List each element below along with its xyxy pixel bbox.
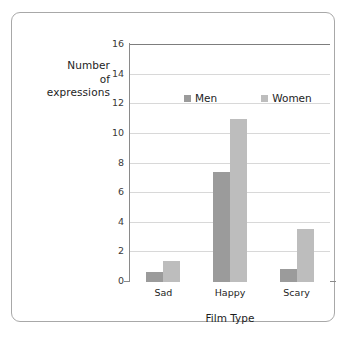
- x-axis-tick-label-happy: Happy: [195, 287, 265, 298]
- y-axis-tick-label: 8: [98, 157, 124, 168]
- gridline: [130, 74, 330, 75]
- y-axis-tick-label: 16: [98, 38, 124, 49]
- legend-swatch-icon-women: [261, 95, 268, 102]
- x-axis-tick-label-scary: Scary: [262, 287, 332, 298]
- bar-happy-women: [230, 119, 247, 282]
- legend-swatch-icon-men: [184, 95, 191, 102]
- plot-area: MenWomen: [130, 44, 330, 282]
- y-axis-tick-label: 10: [98, 127, 124, 138]
- y-axis-tick-label: 0: [98, 275, 124, 286]
- bar-sad-men: [146, 272, 163, 282]
- legend-label-women: Women: [272, 92, 312, 104]
- legend-entry-men: Men: [184, 92, 217, 104]
- y-axis-tick-label: 2: [98, 245, 124, 256]
- x-axis-title: Film Type: [130, 312, 330, 324]
- bar-happy-men: [213, 172, 230, 282]
- x-axis-tick-label-sad: Sad: [128, 287, 198, 298]
- legend-label-men: Men: [195, 92, 217, 104]
- y-axis-title: Number of expressions: [34, 59, 110, 100]
- legend-entry-women: Women: [261, 92, 312, 104]
- figure-frame: Number of expressions MenWomen 024681012…: [11, 12, 335, 322]
- bar-scary-men: [280, 269, 297, 282]
- y-axis-tick-label: 4: [98, 216, 124, 227]
- chart-legend: MenWomen: [184, 92, 312, 104]
- bar-sad-women: [163, 261, 180, 282]
- bar-scary-women: [297, 229, 314, 282]
- y-axis-tick-label: 6: [98, 186, 124, 197]
- y-axis-tick-label: 12: [98, 97, 124, 108]
- y-axis-tick-label: 14: [98, 68, 124, 79]
